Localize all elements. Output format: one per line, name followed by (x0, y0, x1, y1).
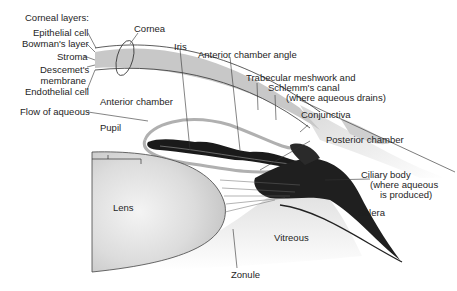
eye-anatomy-diagram: Corneal layers: Epithelial cell Bowman's… (0, 0, 457, 291)
label-iris: Iris (174, 42, 187, 52)
label-descemets-2: membrane (40, 76, 86, 86)
label-epithelial-cell: Epithelial cell (33, 28, 88, 38)
label-sclera: Sclera (358, 208, 385, 218)
label-zonule: Zonule (231, 270, 260, 280)
label-ciliary-3: is produced) (380, 190, 432, 200)
label-vitreous: Vitreous (274, 233, 309, 243)
label-anterior-chamber-angle: Anterior chamber angle (198, 50, 297, 60)
label-endothelial-cell: Endothelial cell (25, 87, 89, 97)
label-lens: Lens (113, 203, 134, 213)
label-corneal-layers: Corneal layers: (25, 13, 89, 23)
label-flow-of-aqueous: Flow of aqueous (20, 107, 90, 117)
label-trabecular-3: (where aqueous drains) (286, 93, 386, 103)
label-bowmans-layer: Bowman's layer (22, 39, 89, 49)
label-conjunctiva: Conjunctiva (301, 110, 351, 120)
label-pupil: Pupil (100, 123, 121, 133)
label-anterior-chamber: Anterior chamber (100, 97, 173, 107)
label-posterior-chamber: Posterior chamber (326, 135, 404, 145)
label-cornea: Cornea (134, 24, 165, 34)
label-stroma: Stroma (57, 52, 88, 62)
label-descemets-1: Descemet's (40, 65, 86, 75)
